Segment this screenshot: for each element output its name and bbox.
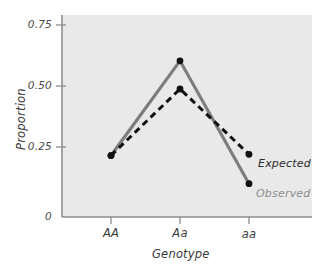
x-tick-label-aa: aa <box>224 229 274 241</box>
legend-label-expected: Expected <box>258 158 311 169</box>
chart-figure: 0.75 0.50 0.25 0 Proportion AA Aa aa Gen… <box>0 0 336 271</box>
x-tick-label-AA: AA <box>86 228 136 240</box>
data-point-marker <box>177 57 184 64</box>
data-point-marker <box>246 180 253 187</box>
x-tick-label-Aa: Aa <box>155 228 205 240</box>
x-axis-title: Genotype <box>152 249 210 261</box>
y-tick-label-075: 0.75 <box>20 19 52 30</box>
legend-label-observed: Observed <box>256 188 311 199</box>
y-axis-title: Proportion <box>16 88 28 150</box>
x-tick-marks <box>111 217 249 224</box>
data-point-marker <box>246 151 253 158</box>
data-point-marker <box>108 152 115 159</box>
observed-line <box>111 61 249 184</box>
y-tick-marks <box>56 25 66 147</box>
observed-markers <box>108 57 253 187</box>
data-point-marker <box>177 86 184 93</box>
y-tick-label-000: 0 <box>20 211 52 222</box>
series-observed <box>108 57 253 187</box>
